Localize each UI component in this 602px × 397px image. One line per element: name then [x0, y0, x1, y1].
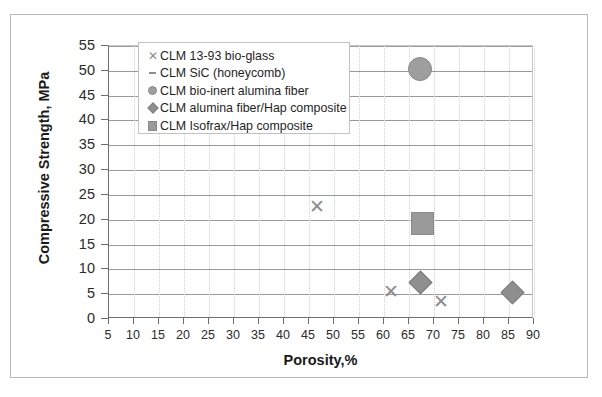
x-tick-mark: [408, 318, 409, 324]
y-tick-mark: [101, 144, 108, 145]
y-tick-mark: [101, 95, 108, 96]
data-point-diamond: [500, 281, 524, 305]
x-tick-mark: [433, 318, 434, 324]
y-tick-label: 40: [55, 112, 95, 127]
y-tick-label: 20: [55, 212, 95, 227]
diamond-marker: [145, 101, 160, 115]
x-axis-title: Porosity,%: [108, 352, 533, 368]
y-tick-label: 45: [55, 88, 95, 103]
x-tick-mark: [533, 318, 534, 324]
legend-item-label: CLM SiC (honeycomb): [160, 66, 285, 80]
x-tick-mark: [308, 318, 309, 324]
y-tick-label: 5: [55, 286, 95, 301]
legend-item: CLM SiC (honeycomb): [145, 65, 349, 83]
x-tick-mark: [258, 318, 259, 324]
legend-item-label: CLM bio-inert alumina fiber: [160, 84, 309, 98]
x-tick-mark: [483, 318, 484, 324]
legend-item-label: CLM 13-93 bio-glass: [160, 49, 274, 63]
x-tick-mark: [333, 318, 334, 324]
legend-item: CLM Isofrax/Hap composite: [145, 117, 349, 135]
x-tick-mark: [458, 318, 459, 324]
gridline-horizontal: [109, 294, 532, 295]
x-tick-mark: [158, 318, 159, 324]
y-tick-label: 30: [55, 162, 95, 177]
legend-item: ✕CLM 13-93 bio-glass: [145, 47, 349, 65]
y-tick-mark: [101, 244, 108, 245]
y-tick-mark: [101, 268, 108, 269]
x-tick-mark: [208, 318, 209, 324]
y-tick-label: 0: [55, 311, 95, 326]
square-marker-glyph: [148, 121, 158, 131]
gridline-vertical: [534, 46, 535, 317]
cross-marker-glyph: ✕: [148, 50, 158, 62]
cross-marker: ✕: [145, 49, 160, 63]
x-tick-mark: [183, 318, 184, 324]
gridline-vertical: [484, 46, 485, 317]
y-tick-mark: [101, 45, 108, 46]
gridline-horizontal: [109, 269, 532, 270]
data-point-cross: ✕: [433, 292, 449, 311]
y-tick-label: 55: [55, 38, 95, 53]
data-point-cross: ✕: [383, 282, 399, 301]
y-tick-label: 50: [55, 63, 95, 78]
gridline-vertical: [459, 46, 460, 317]
y-tick-label: 35: [55, 137, 95, 152]
square-marker: [145, 119, 160, 133]
data-point-circle: [408, 57, 432, 81]
y-tick-mark: [101, 70, 108, 71]
y-tick-label: 15: [55, 237, 95, 252]
y-axis-title: Compressive Strength, MPa: [36, 38, 52, 298]
legend-item: CLM alumina fiber/Hap composite: [145, 100, 349, 118]
x-tick-mark: [283, 318, 284, 324]
chart-legend: ✕CLM 13-93 bio-glassCLM SiC (honeycomb)C…: [138, 42, 350, 134]
legend-item-label: CLM Isofrax/Hap composite: [160, 119, 313, 133]
gridline-vertical: [134, 46, 135, 317]
gridline-horizontal: [109, 220, 532, 221]
x-tick-mark: [108, 318, 109, 324]
x-tick-mark: [508, 318, 509, 324]
y-tick-mark: [101, 219, 108, 220]
gridline-horizontal: [109, 245, 532, 246]
y-tick-mark: [101, 293, 108, 294]
data-point-diamond: [408, 271, 432, 295]
gridline-vertical: [409, 46, 410, 317]
circle-marker: [145, 84, 160, 98]
legend-item-label: CLM alumina fiber/Hap composite: [160, 101, 347, 115]
y-tick-mark: [101, 169, 108, 170]
x-tick-label: 90: [513, 329, 553, 342]
x-tick-mark: [358, 318, 359, 324]
x-tick-mark: [133, 318, 134, 324]
dash-marker-glyph: [149, 72, 156, 74]
circle-marker-glyph: [148, 86, 157, 95]
gridline-horizontal: [109, 170, 532, 171]
x-tick-mark: [383, 318, 384, 324]
y-tick-mark: [101, 194, 108, 195]
gridline-vertical: [434, 46, 435, 317]
y-tick-label: 10: [55, 261, 95, 276]
gridline-vertical: [509, 46, 510, 317]
gridline-vertical: [359, 46, 360, 317]
data-point-square: [411, 212, 434, 235]
y-tick-mark: [101, 119, 108, 120]
gridline-horizontal: [109, 145, 532, 146]
x-tick-mark: [233, 318, 234, 324]
gridline-vertical: [384, 46, 385, 317]
y-tick-label: 25: [55, 187, 95, 202]
diamond-marker-glyph: [147, 103, 158, 114]
legend-item: CLM bio-inert alumina fiber: [145, 82, 349, 100]
data-point-cross: ✕: [309, 197, 325, 216]
dash-marker: [145, 66, 160, 80]
y-tick-mark: [101, 318, 108, 319]
